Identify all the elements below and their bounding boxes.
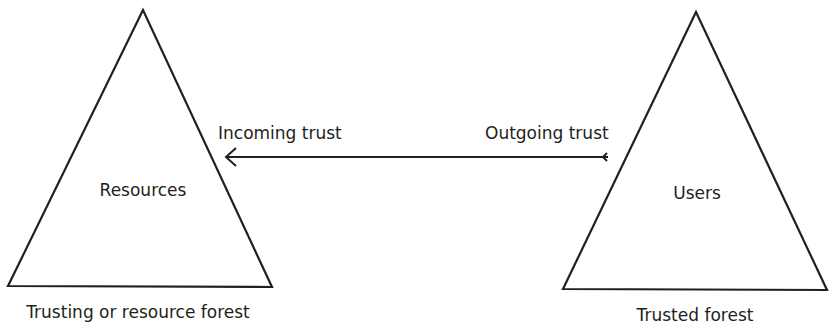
- left-forest-label: Resources: [100, 180, 187, 200]
- left-forest-triangle: [8, 10, 272, 287]
- forest-trust-diagram: [0, 0, 834, 335]
- right-forest-caption: Trusted forest: [637, 305, 754, 325]
- incoming-trust-label: Incoming trust: [218, 123, 342, 143]
- trust-arrow: [226, 148, 608, 166]
- right-forest-label: Users: [673, 183, 721, 203]
- outgoing-trust-label: Outgoing trust: [485, 123, 609, 143]
- left-forest-caption: Trusting or resource forest: [26, 302, 250, 322]
- right-forest-triangle: [563, 12, 827, 290]
